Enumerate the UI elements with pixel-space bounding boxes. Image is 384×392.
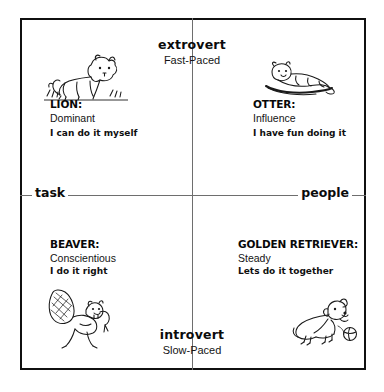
otter-trait: Influence: [253, 111, 346, 126]
otter-motto: I have fun doing it: [253, 126, 346, 140]
axis-label-extrovert: extrovert Fast-Paced: [112, 38, 272, 67]
lion-motto: I can do it myself: [50, 126, 137, 140]
introvert-pole-text: introvert: [112, 328, 272, 342]
beaver-trait: Conscientious: [50, 251, 116, 265]
fast-paced-text: Fast-Paced: [112, 53, 272, 67]
lion-title: LION:: [50, 98, 137, 111]
axis-label-introvert: introvert Slow-Paced: [112, 328, 272, 357]
lion-cub-icon: [44, 52, 128, 102]
golden-retriever-icon: [284, 296, 364, 352]
slow-paced-text: Slow-Paced: [112, 343, 272, 357]
golden-retriever-trait: Steady: [238, 251, 358, 265]
otter-title: OTTER:: [253, 98, 346, 111]
otter-icon: [256, 58, 336, 102]
beaver-title: BEAVER:: [50, 238, 116, 251]
quadrant-golden-retriever: GOLDEN RETRIEVER: Steady Lets do it toge…: [238, 238, 358, 278]
quadrant-otter: OTTER: Influence I have fun doing it: [253, 98, 346, 140]
vertical-axis-line: [192, 18, 193, 370]
beaver-icon: [42, 284, 114, 350]
golden-retriever-title: GOLDEN RETRIEVER:: [238, 238, 358, 251]
beaver-motto: I do it right: [50, 265, 116, 278]
axis-label-people: people: [298, 186, 352, 200]
axis-label-task: task: [32, 186, 68, 200]
golden-retriever-motto: Lets do it together: [238, 265, 358, 278]
quadrant-lion: LION: Dominant I can do it myself: [50, 98, 137, 140]
diagram-canvas: extrovert Fast-Paced introvert Slow-Pace…: [0, 0, 384, 392]
quadrant-beaver: BEAVER: Conscientious I do it right: [50, 238, 116, 278]
extrovert-pole-text: extrovert: [112, 38, 272, 52]
lion-trait: Dominant: [50, 111, 137, 126]
